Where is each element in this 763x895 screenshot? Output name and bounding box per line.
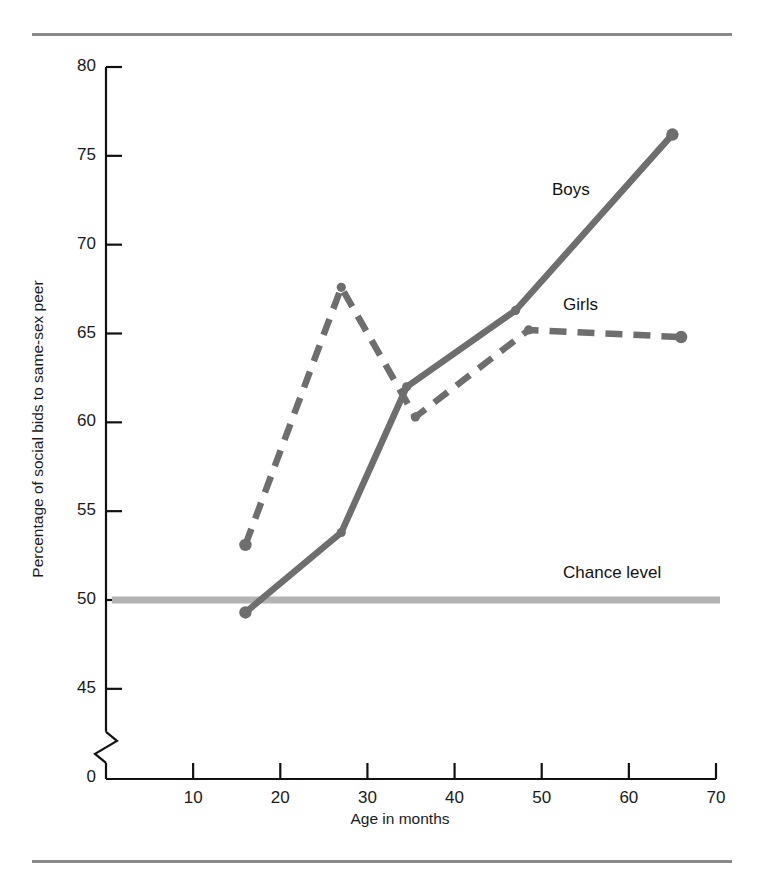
x-tick-label: 10 (173, 788, 213, 808)
data-point-boys (337, 528, 346, 537)
data-point-girls (524, 325, 533, 334)
y-tick-label: 55 (40, 500, 96, 520)
data-point-boys (666, 128, 678, 140)
axes-group (95, 67, 716, 779)
series-label-boys: Boys (552, 180, 590, 200)
data-point-girls (411, 412, 420, 421)
data-series-group (239, 128, 687, 618)
data-point-girls (239, 539, 251, 551)
data-point-girls (337, 283, 346, 292)
x-tick-label: 20 (260, 788, 300, 808)
y-axis-origin-label: 0 (40, 767, 96, 787)
y-tick-label: 80 (40, 56, 96, 76)
y-tick-label: 60 (40, 411, 96, 431)
data-point-boys (239, 606, 251, 618)
data-point-boys (511, 306, 520, 315)
y-tick-label: 70 (40, 234, 96, 254)
y-tick-label: 45 (40, 678, 96, 698)
x-tick-label: 30 (347, 788, 387, 808)
x-axis-title: Age in months (300, 810, 500, 828)
y-tick-label: 65 (40, 323, 96, 343)
x-tick-label: 40 (435, 788, 475, 808)
y-tick-label: 50 (40, 589, 96, 609)
x-tick-label: 70 (696, 788, 736, 808)
series-line-girls (245, 287, 681, 545)
chart-plot-area (0, 0, 763, 895)
y-tick-label: 75 (40, 145, 96, 165)
figure-container: Percentage of social bids to same-sex pe… (0, 0, 763, 895)
series-label-girls: Girls (563, 295, 598, 315)
chance-level-label: Chance level (563, 563, 661, 583)
data-point-girls (675, 331, 687, 343)
x-tick-label: 60 (609, 788, 649, 808)
x-tick-label: 50 (522, 788, 562, 808)
